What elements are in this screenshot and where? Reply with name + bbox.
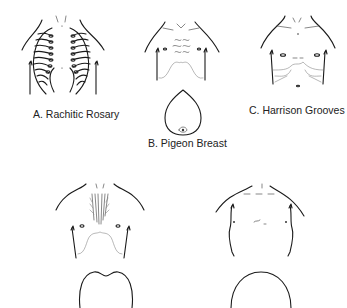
funnel-chest-cross-section-icon — [76, 268, 136, 308]
label-pigeon-breast: B. Pigeon Breast — [148, 137, 227, 149]
panel-e-barrel-chest-torso — [212, 182, 308, 260]
panel-e-barrel-chest-cross-section — [228, 268, 294, 308]
barrel-chest-torso-icon — [212, 182, 308, 260]
pigeon-breast-cross-section-icon — [163, 88, 203, 138]
label-harrison-grooves: C. Harrison Grooves — [249, 104, 345, 116]
panel-c-harrison-grooves-torso — [255, 12, 341, 92]
panel-b-pigeon-breast-torso — [143, 18, 221, 86]
harrison-grooves-torso-icon — [255, 12, 341, 92]
barrel-chest-cross-section-icon — [228, 268, 294, 308]
panel-d-funnel-chest-cross-section — [76, 268, 136, 308]
rachitic-rosary-torso-icon — [18, 12, 108, 100]
panel-b-pigeon-breast-cross-section — [163, 88, 203, 138]
panel-d-funnel-chest-torso — [52, 180, 148, 258]
label-rachitic-rosary: A. Rachitic Rosary — [33, 108, 119, 120]
pigeon-breast-torso-icon — [143, 18, 221, 86]
panel-a-rachitic-rosary-torso — [18, 12, 108, 100]
funnel-chest-torso-icon — [52, 180, 148, 258]
